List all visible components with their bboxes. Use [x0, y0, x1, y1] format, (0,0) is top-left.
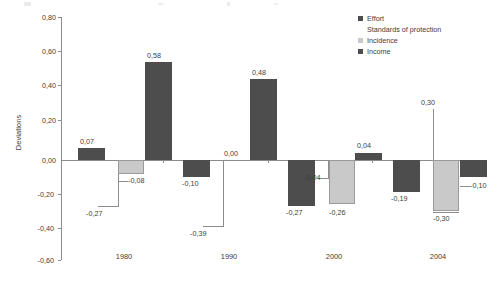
x-tick-mark-1980 — [163, 160, 164, 163]
leader-2004-income — [460, 186, 470, 187]
x-axis-label-2000: 2000 — [309, 252, 359, 261]
legend-item-standards-of-protection: Standards of protection — [358, 25, 441, 35]
chart-legend: Effort Standards of protection Incidence… — [358, 14, 441, 58]
y-tick-mark-040 — [58, 85, 61, 86]
bar-2000-incidence — [329, 160, 355, 204]
bar-1980-effort — [78, 148, 105, 160]
value-label-2000-standards: -0,04 — [304, 173, 320, 182]
legend-label-standards-of-protection: Standards of protection — [367, 25, 441, 34]
bar-1980-incidence — [118, 160, 144, 174]
bar-1990-standards — [223, 160, 224, 226]
y-tick-label-060: 0,60 — [22, 47, 56, 56]
x-axis-label-2004: 2004 — [413, 252, 463, 261]
bar-1990-effort — [183, 160, 210, 177]
value-label-2004-incidence: -0,30 — [433, 214, 449, 223]
value-label-2004-income: -0,10 — [470, 181, 486, 190]
y-tick-label-000: 0,00 — [22, 156, 56, 165]
y-tick-mark-neg020 — [58, 194, 61, 195]
legend-label-effort: Effort — [367, 14, 384, 23]
scan-artifact — [158, 3, 163, 5]
value-label-1990-income: 0,48 — [252, 68, 266, 77]
bar-2004-incidence — [433, 160, 459, 211]
scan-artifact — [227, 2, 230, 6]
leader-2004-incidence — [433, 212, 459, 213]
value-label-2000-incidence: -0,26 — [329, 208, 345, 217]
y-tick-label-020: 0,20 — [22, 116, 56, 125]
value-label-1990-standards: -0,39 — [190, 229, 206, 238]
scan-artifact — [24, 2, 31, 6]
value-label-2004-standards: 0,30 — [421, 98, 435, 107]
bar-1980-income — [145, 62, 172, 160]
x-axis-label-1980: 1980 — [99, 252, 149, 261]
y-tick-label-neg060: -0,60 — [20, 256, 54, 265]
bar-2004-effort — [393, 160, 420, 192]
leader-1980-standards — [98, 206, 119, 207]
legend-swatch-incidence — [358, 38, 363, 43]
legend-swatch-standards-of-protection — [358, 27, 363, 32]
y-tick-label-080: 0,80 — [22, 13, 56, 22]
y-tick-mark-020 — [58, 120, 61, 121]
y-tick-label-neg020: -0,20 — [20, 190, 54, 199]
value-label-1980-standards: -0,27 — [86, 209, 102, 218]
bar-2000-income — [355, 153, 382, 160]
x-tick-mark-1990 — [268, 160, 269, 163]
value-label-2000-income: 0,04 — [357, 141, 371, 150]
bar-2004-income — [460, 160, 487, 177]
x-tick-mark-2000 — [372, 160, 373, 163]
bar-1990-income — [250, 79, 277, 160]
legend-item-income: Income — [358, 47, 441, 57]
bar-2000-effort — [288, 160, 315, 206]
y-tick-label-neg040: -0,40 — [20, 224, 54, 233]
bar-2004-standards — [433, 109, 434, 160]
value-label-2004-effort: -0,19 — [391, 194, 407, 203]
y-tick-label-040: 0,40 — [22, 81, 56, 90]
grouped-bar-chart: Effort Standards of protection Incidence… — [0, 0, 498, 282]
leader-1980-incidence — [118, 181, 128, 182]
legend-item-incidence: Incidence — [358, 36, 441, 46]
value-label-1980-incidence: -0,08 — [128, 176, 144, 185]
y-tick-mark-neg040 — [58, 228, 61, 229]
y-axis-line — [61, 17, 62, 260]
scan-artifact — [274, 3, 278, 5]
value-label-1980-income: 0,58 — [147, 51, 161, 60]
legend-item-effort: Effort — [358, 14, 441, 24]
y-tick-mark-neg060 — [58, 260, 61, 261]
legend-swatch-effort — [358, 16, 363, 21]
legend-label-income: Income — [367, 47, 391, 56]
value-label-2000-effort: -0,27 — [286, 208, 302, 217]
legend-swatch-income — [358, 49, 363, 54]
x-axis-label-1990: 1990 — [204, 252, 254, 261]
leader-1990-standards — [203, 226, 224, 227]
value-label-1990-effort: -0,10 — [182, 179, 198, 188]
legend-label-incidence: Incidence — [367, 36, 398, 45]
value-label-1980-effort: 0,07 — [80, 137, 94, 146]
value-label-1990-incidence: 0,00 — [224, 149, 238, 158]
y-tick-mark-060 — [58, 51, 61, 52]
y-tick-mark-080 — [58, 17, 61, 18]
